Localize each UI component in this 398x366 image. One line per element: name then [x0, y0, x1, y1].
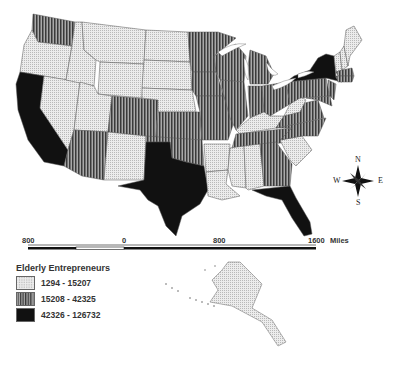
- us-states: [16, 14, 362, 236]
- state-ar: [204, 144, 230, 172]
- legend-label-high: 42326 - 126732: [41, 310, 101, 320]
- alaska: [165, 262, 286, 346]
- legend-swatch-dotted: [16, 276, 35, 290]
- state-co: [108, 96, 158, 138]
- state-ct: [336, 76, 354, 82]
- state-nd: [144, 30, 190, 62]
- compass-north-label: N: [355, 155, 361, 164]
- compass-west-label: W: [333, 176, 341, 185]
- state-fl: [252, 186, 312, 236]
- map-legend: Elderly Entrepreneurs 1294 - 15207 15208…: [16, 263, 110, 323]
- scale-bar: [28, 245, 316, 250]
- scale-label-1600: 1600: [308, 236, 325, 245]
- state-ms: [228, 146, 246, 188]
- state-wy: [98, 62, 144, 98]
- legend-swatch-striped: [16, 292, 35, 306]
- legend-swatch-solid: [16, 308, 35, 322]
- legend-item-low: 1294 - 15207: [16, 275, 110, 291]
- legend-item-high: 42326 - 126732: [16, 307, 110, 323]
- state-me: [344, 26, 362, 66]
- legend-label-low: 1294 - 15207: [41, 278, 91, 288]
- compass-south-label: S: [356, 198, 360, 207]
- state-sd: [142, 60, 192, 90]
- compass-rose-icon: [342, 165, 374, 197]
- scale-units-label: Miles: [330, 236, 349, 245]
- legend-item-mid: 15208 - 42325: [16, 291, 110, 307]
- legend-title: Elderly Entrepreneurs: [16, 263, 110, 273]
- state-nm: [104, 132, 146, 180]
- legend-label-mid: 15208 - 42325: [41, 294, 96, 304]
- scale-label-0: 0: [122, 236, 126, 245]
- scale-label-800-left: 800: [22, 236, 35, 245]
- compass-east-label: E: [378, 176, 383, 185]
- state-ak: [210, 262, 286, 346]
- state-wa: [32, 14, 75, 46]
- scale-label-800-right: 800: [213, 236, 226, 245]
- state-ny: [286, 54, 342, 82]
- state-ks: [156, 112, 202, 140]
